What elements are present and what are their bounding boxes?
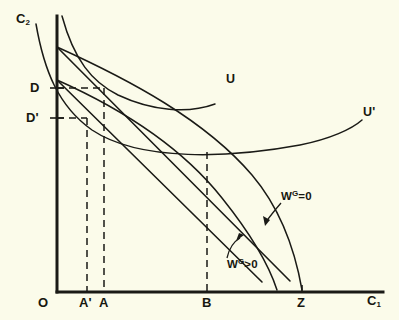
- indifference-curve-u-prime: [36, 24, 362, 155]
- curve-label-u: U: [226, 73, 235, 86]
- intertemporal-choice-figure: C2 C1 O D D' A' A B Z U U' WG=0 WG>0: [0, 0, 399, 320]
- x-tick-label-b: B: [202, 296, 212, 309]
- curve-label-u-prime: U': [363, 106, 375, 119]
- y-axis-label: C2: [16, 12, 30, 27]
- x-tick-label-z: Z: [297, 296, 305, 309]
- x-tick-label-a: A: [99, 296, 109, 309]
- budget-line-upper: [57, 47, 290, 281]
- x-axis-label: C1: [367, 294, 381, 309]
- x-tick-label-a-prime: A': [79, 296, 92, 309]
- chart-plot-area: [0, 0, 399, 320]
- y-tick-label-d-prime: D': [26, 111, 39, 124]
- curve-label-wg-greater-zero: WG>0: [227, 258, 258, 271]
- indifference-curve-u: [62, 16, 215, 110]
- y-tick-label-d: D: [30, 81, 40, 94]
- curve-label-wg-equals-zero: WG=0: [281, 190, 312, 203]
- origin-label: O: [38, 296, 48, 309]
